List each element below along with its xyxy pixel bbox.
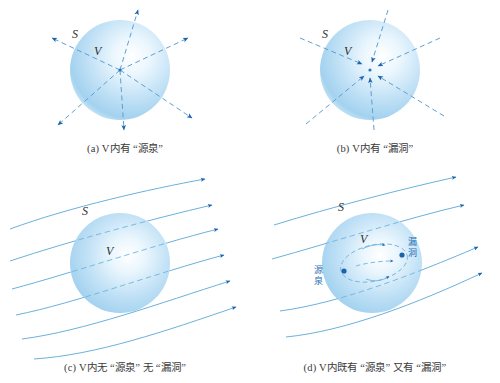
source-point	[341, 268, 346, 273]
field-line-6	[34, 307, 236, 359]
source-label-line2: 泉	[314, 275, 323, 286]
panel-c: S V (c) V内无 “源泉” 无 “漏洞”	[0, 163, 250, 383]
sink-label-line1: 漏	[408, 236, 417, 247]
surface-label-s: S	[338, 200, 344, 214]
panel-d-diagram: S V 源 泉 漏 洞	[250, 163, 500, 361]
surface-label-s: S	[322, 27, 328, 41]
sink-label-line2: 洞	[408, 248, 417, 258]
surface-label-s: S	[82, 204, 88, 218]
closed-surface-sphere	[70, 213, 170, 313]
vector-field-figure: S V (a) V内有 “源泉”	[0, 0, 500, 383]
panel-b: S V (b) V内有 “漏洞”	[250, 0, 500, 160]
caption-b: (b) V内有 “漏洞”	[250, 140, 500, 155]
panel-c-diagram: S V	[0, 163, 250, 361]
caption-d: (d) V内既有 “源泉” 又有 “漏洞”	[250, 359, 500, 374]
panel-d: S V 源 泉 漏 洞 (d) V内既有 “源泉” 又有 “漏洞”	[250, 163, 500, 383]
panel-b-diagram: S V	[250, 0, 500, 140]
source-label-line1: 源	[314, 265, 323, 275]
sink-point	[399, 252, 404, 257]
source-point	[118, 68, 121, 71]
caption-a: (a) V内有 “源泉”	[0, 140, 250, 155]
surface-label-s: S	[72, 27, 78, 41]
panel-a-diagram: S V	[0, 0, 250, 140]
sink-point	[368, 68, 371, 71]
panel-a: S V (a) V内有 “源泉”	[0, 0, 250, 160]
caption-c: (c) V内无 “源泉” 无 “漏洞”	[0, 359, 250, 374]
